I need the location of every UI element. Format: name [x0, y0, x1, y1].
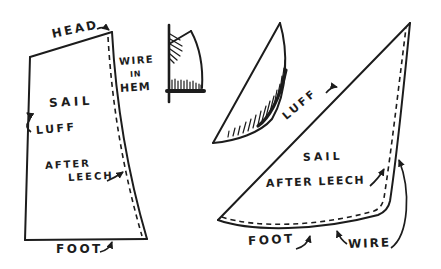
- draft-detail-drawing: [213, 23, 286, 143]
- wire-foot-arrow-icon: [337, 231, 347, 244]
- after-leech-right-label: AFTER LEECH: [266, 175, 365, 189]
- curved-sail-outline: [218, 23, 410, 228]
- hem-detail-drawing: [167, 25, 204, 102]
- diagram-line-art: [0, 0, 441, 269]
- flat-sail-leech-wire-dashed: [108, 37, 142, 236]
- luff-right-arrow-icon: [326, 87, 337, 93]
- after-leech-right-arrow-icon: [370, 169, 384, 186]
- foot-right-label: FOOT: [248, 233, 295, 247]
- wire-in-hem-label-line2: IN: [130, 70, 142, 79]
- hem-bottom-hatching: [169, 79, 201, 90]
- foot-right-arrow-icon: [296, 236, 310, 249]
- wire-in-hem-label-line3: HEM: [120, 81, 151, 94]
- sail-rigging-diagram: HEAD SAIL LUFF AFTER LEECH FOOT WIRE IN …: [0, 0, 441, 269]
- curved-sail-label: SAIL: [303, 151, 343, 163]
- flat-sail-label: SAIL: [49, 95, 94, 109]
- luff-left-label: LUFF: [36, 121, 77, 135]
- foot-left-label: FOOT: [56, 243, 103, 255]
- wire-right-label: WIRE: [348, 236, 392, 249]
